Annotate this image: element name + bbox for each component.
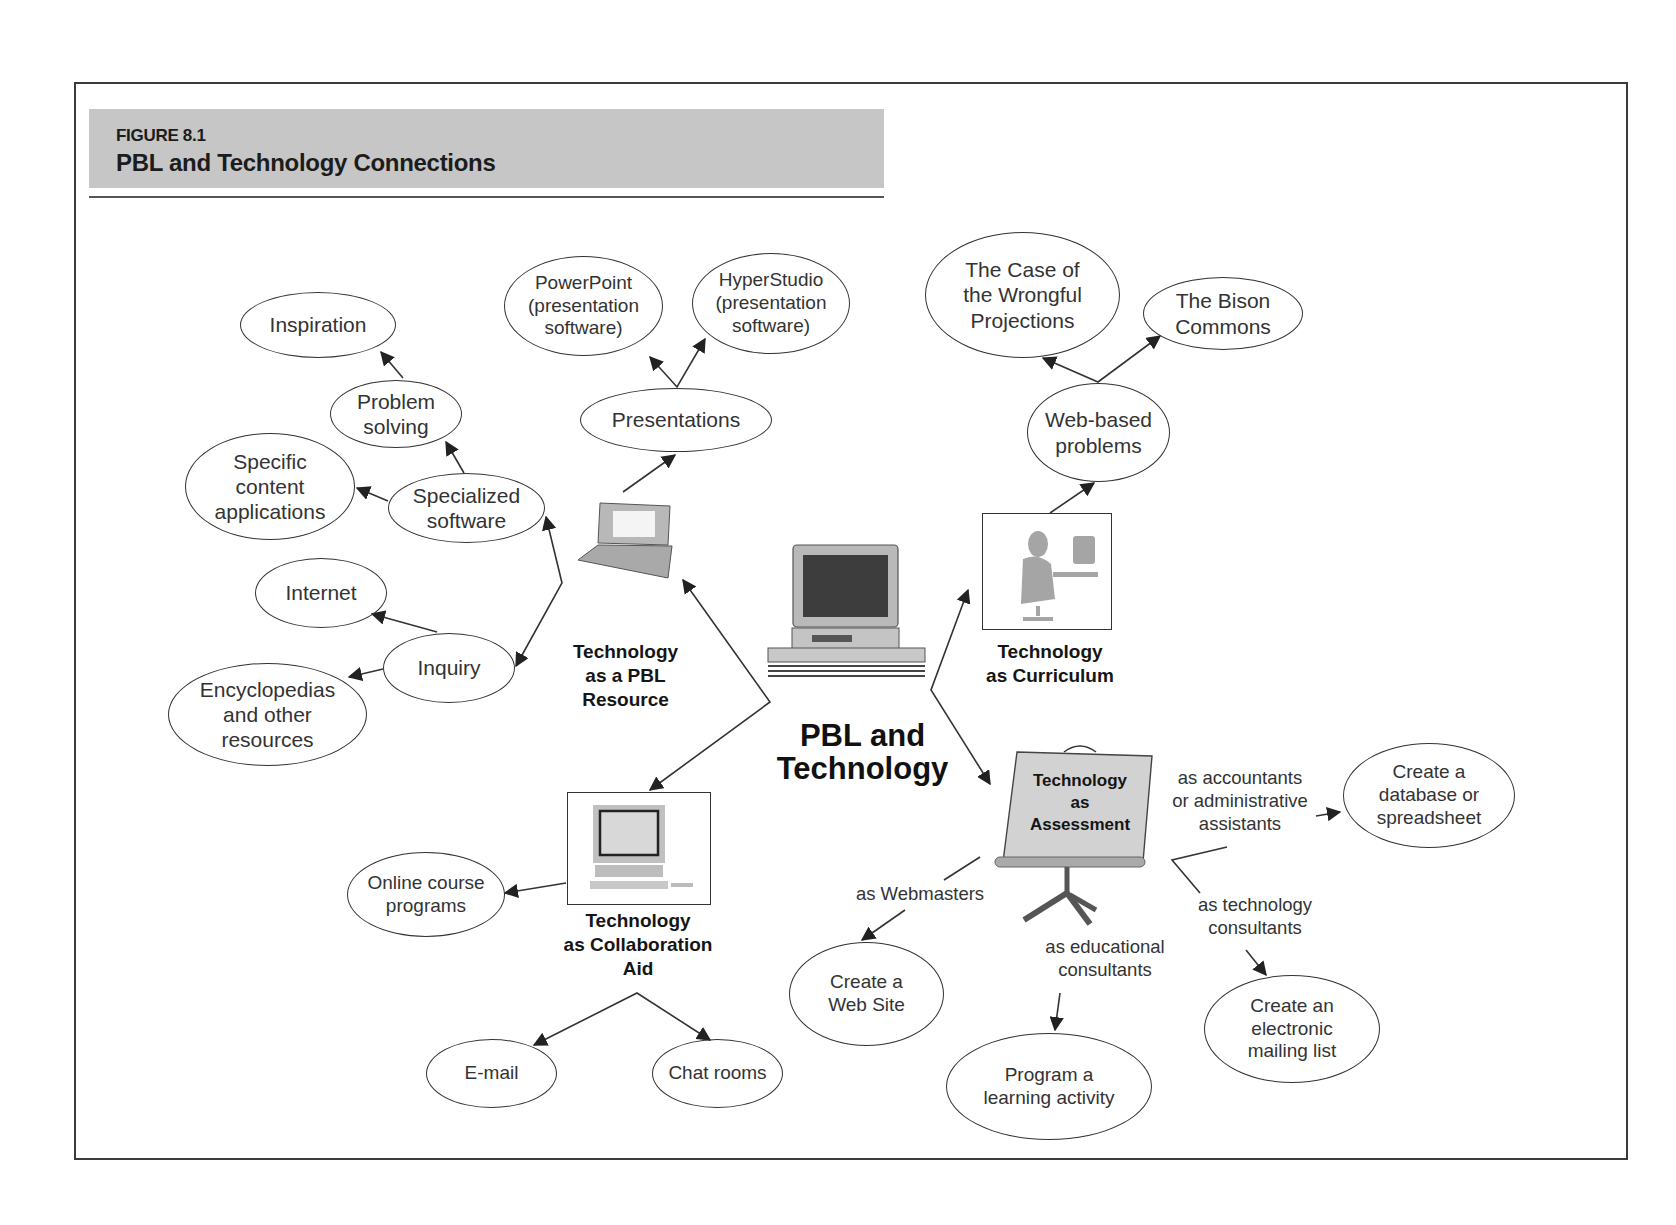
hub-curriculum-label: Technology as Curriculum xyxy=(960,640,1140,688)
node-internet: Internet xyxy=(255,558,387,628)
collaboration-picture-box xyxy=(567,792,711,905)
node-create-database: Create a database or spreadsheet xyxy=(1343,743,1515,848)
laptop-illustration xyxy=(578,503,672,578)
node-bison-commons: The Bison Commons xyxy=(1143,277,1303,350)
node-inspiration: Inspiration xyxy=(240,292,396,358)
node-encyclopedias: Encyclopedias and other resources xyxy=(168,663,367,766)
hub-resource-label: Technology as a PBL Resource xyxy=(548,640,703,711)
node-create-website: Create a Web Site xyxy=(789,942,944,1046)
node-program-activity: Program a learning activity xyxy=(946,1033,1152,1140)
person-at-computer-icon xyxy=(983,514,1111,629)
node-specialized-software: Specialized software xyxy=(388,473,545,543)
node-presentations: Presentations xyxy=(580,388,772,452)
node-problem-solving: Problem solving xyxy=(330,380,462,448)
node-case-wrongful-projections: The Case of the Wrongful Projections xyxy=(925,232,1120,358)
edge-label-webmasters: as Webmasters xyxy=(840,882,1000,905)
node-web-based-problems: Web-based problems xyxy=(1027,383,1170,482)
edge-label-educational: as educational consultants xyxy=(1030,935,1180,981)
edge-label-tech-consultants: as technology consultants xyxy=(1180,893,1330,939)
curriculum-picture-box xyxy=(982,513,1112,630)
node-chat-rooms: Chat rooms xyxy=(652,1039,783,1108)
edge-label-accountants: as accountants or administrative assista… xyxy=(1160,766,1320,835)
node-powerpoint: PowerPoint (presentation software) xyxy=(504,256,663,356)
hub-assessment-label: Technology as Assessment xyxy=(1012,770,1148,836)
desktop-computer-icon xyxy=(568,793,710,904)
hub-collaboration-label: Technology as Collaboration Aid xyxy=(548,909,728,980)
node-email: E-mail xyxy=(426,1039,557,1108)
node-online-course: Online course programs xyxy=(347,852,505,937)
central-computer-illustration xyxy=(768,545,925,676)
node-hyperstudio: HyperStudio (presentation software) xyxy=(692,253,850,354)
center-title: PBL and Technology xyxy=(760,720,965,785)
node-specific-content: Specific content applications xyxy=(185,433,355,540)
node-inquiry: Inquiry xyxy=(383,633,515,703)
node-create-mailing-list: Create an electronic mailing list xyxy=(1204,975,1380,1083)
